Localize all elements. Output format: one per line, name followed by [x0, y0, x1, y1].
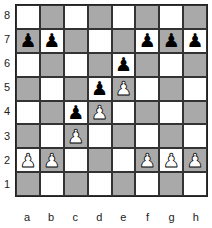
square-g4[interactable] — [159, 101, 183, 125]
white-pawn-icon[interactable]: ♟ — [187, 151, 204, 170]
square-g3[interactable] — [159, 124, 183, 148]
rank-label: 2 — [2, 154, 12, 166]
square-h4[interactable] — [183, 101, 207, 125]
square-c3[interactable]: ♟ — [64, 124, 88, 148]
square-a8[interactable] — [16, 5, 40, 29]
file-label: h — [184, 211, 208, 223]
black-pawn-icon[interactable]: ♟ — [91, 79, 108, 98]
file-label: g — [160, 211, 184, 223]
square-g2[interactable]: ♟ — [159, 148, 183, 172]
black-pawn-icon[interactable]: ♟ — [115, 55, 132, 74]
square-c8[interactable] — [64, 5, 88, 29]
square-a6[interactable] — [16, 53, 40, 77]
square-e8[interactable] — [112, 5, 136, 29]
square-f8[interactable] — [135, 5, 159, 29]
square-f2[interactable]: ♟ — [135, 148, 159, 172]
square-e6[interactable]: ♟ — [112, 53, 136, 77]
white-pawn-icon[interactable]: ♟ — [115, 79, 132, 98]
rank-label: 6 — [2, 57, 12, 69]
square-d2[interactable] — [88, 148, 112, 172]
square-g5[interactable] — [159, 77, 183, 101]
square-d5[interactable]: ♟ — [88, 77, 112, 101]
square-b2[interactable]: ♟ — [40, 148, 64, 172]
square-b5[interactable] — [40, 77, 64, 101]
square-c4[interactable]: ♟ — [64, 101, 88, 125]
black-pawn-icon[interactable]: ♟ — [43, 31, 60, 50]
square-b3[interactable] — [40, 124, 64, 148]
white-pawn-icon[interactable]: ♟ — [163, 151, 180, 170]
square-h5[interactable] — [183, 77, 207, 101]
white-pawn-icon[interactable]: ♟ — [19, 151, 36, 170]
square-h6[interactable] — [183, 53, 207, 77]
white-pawn-icon[interactable]: ♟ — [43, 151, 60, 170]
square-b7[interactable]: ♟ — [40, 29, 64, 53]
square-h1[interactable] — [183, 172, 207, 196]
square-c5[interactable] — [64, 77, 88, 101]
chess-board: ♟♟♟♟♟♟♟♟♟♟♟♟♟♟♟♟ — [15, 4, 208, 197]
square-g8[interactable] — [159, 5, 183, 29]
square-f7[interactable]: ♟ — [135, 29, 159, 53]
square-d4[interactable]: ♟ — [88, 101, 112, 125]
rank-label: 1 — [2, 178, 12, 190]
square-e5[interactable]: ♟ — [112, 77, 136, 101]
square-h8[interactable] — [183, 5, 207, 29]
square-a1[interactable] — [16, 172, 40, 196]
square-h3[interactable] — [183, 124, 207, 148]
square-f6[interactable] — [135, 53, 159, 77]
square-g6[interactable] — [159, 53, 183, 77]
file-label: f — [136, 211, 160, 223]
square-c2[interactable] — [64, 148, 88, 172]
black-pawn-icon[interactable]: ♟ — [19, 31, 36, 50]
square-b6[interactable] — [40, 53, 64, 77]
square-e7[interactable] — [112, 29, 136, 53]
square-g7[interactable]: ♟ — [159, 29, 183, 53]
square-b4[interactable] — [40, 101, 64, 125]
rank-label: 8 — [2, 9, 12, 21]
file-label: d — [87, 211, 111, 223]
square-a2[interactable]: ♟ — [16, 148, 40, 172]
square-e1[interactable] — [112, 172, 136, 196]
rank-label: 3 — [2, 130, 12, 142]
file-label: e — [111, 211, 135, 223]
file-label: c — [63, 211, 87, 223]
square-b1[interactable] — [40, 172, 64, 196]
square-f3[interactable] — [135, 124, 159, 148]
file-label: b — [39, 211, 63, 223]
square-d8[interactable] — [88, 5, 112, 29]
black-pawn-icon[interactable]: ♟ — [67, 103, 84, 122]
square-d6[interactable] — [88, 53, 112, 77]
square-f1[interactable] — [135, 172, 159, 196]
square-c6[interactable] — [64, 53, 88, 77]
square-f5[interactable] — [135, 77, 159, 101]
square-d7[interactable] — [88, 29, 112, 53]
rank-label: 4 — [2, 105, 12, 117]
square-d1[interactable] — [88, 172, 112, 196]
square-e3[interactable] — [112, 124, 136, 148]
square-a5[interactable] — [16, 77, 40, 101]
white-pawn-icon[interactable]: ♟ — [139, 151, 156, 170]
rank-label: 5 — [2, 81, 12, 93]
rank-label: 7 — [2, 33, 12, 45]
square-h2[interactable]: ♟ — [183, 148, 207, 172]
white-pawn-icon[interactable]: ♟ — [91, 103, 108, 122]
file-label: a — [15, 211, 39, 223]
square-h7[interactable]: ♟ — [183, 29, 207, 53]
square-c7[interactable] — [64, 29, 88, 53]
black-pawn-icon[interactable]: ♟ — [187, 31, 204, 50]
black-pawn-icon[interactable]: ♟ — [163, 31, 180, 50]
square-e2[interactable] — [112, 148, 136, 172]
square-a3[interactable] — [16, 124, 40, 148]
square-f4[interactable] — [135, 101, 159, 125]
square-e4[interactable] — [112, 101, 136, 125]
square-a4[interactable] — [16, 101, 40, 125]
square-a7[interactable]: ♟ — [16, 29, 40, 53]
black-pawn-icon[interactable]: ♟ — [139, 31, 156, 50]
white-pawn-icon[interactable]: ♟ — [67, 127, 84, 146]
square-b8[interactable] — [40, 5, 64, 29]
square-c1[interactable] — [64, 172, 88, 196]
square-g1[interactable] — [159, 172, 183, 196]
square-d3[interactable] — [88, 124, 112, 148]
